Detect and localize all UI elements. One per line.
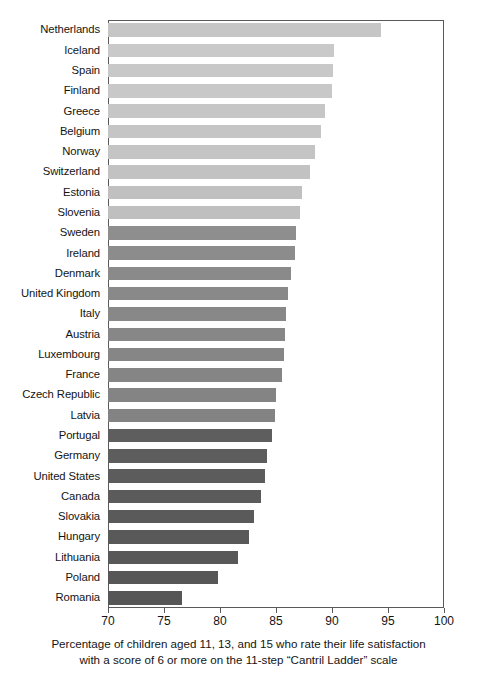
bar xyxy=(108,145,315,159)
category-label-row: Belgium xyxy=(0,121,104,141)
category-label-row: Finland xyxy=(0,81,104,101)
bar xyxy=(108,551,238,565)
category-label-row: Ireland xyxy=(0,243,104,263)
bar-row xyxy=(108,405,444,425)
category-label-row: Latvia xyxy=(0,405,104,425)
bar-row xyxy=(108,385,444,405)
bar xyxy=(108,165,310,179)
category-label-row: Denmark xyxy=(0,263,104,283)
category-label-row: Romania xyxy=(0,588,104,608)
category-label: Spain xyxy=(72,65,104,76)
axis-tick-mark xyxy=(220,608,221,613)
axis-tick-label: 70 xyxy=(101,614,114,628)
category-label: France xyxy=(65,369,104,380)
axis-tick-mark xyxy=(108,608,109,613)
category-label-row: Italy xyxy=(0,304,104,324)
bar-row xyxy=(108,365,444,385)
axis-tick-mark xyxy=(276,608,277,613)
bar-row xyxy=(108,527,444,547)
category-label: Poland xyxy=(65,572,104,583)
caption-line-2: with a score of 6 or more on the 11-step… xyxy=(0,652,477,668)
category-label-row: United Kingdom xyxy=(0,284,104,304)
bar xyxy=(108,186,302,200)
category-label: Netherlands xyxy=(40,24,104,35)
bar xyxy=(108,571,218,585)
bar-row xyxy=(108,486,444,506)
category-label: Lithuania xyxy=(55,552,104,563)
axis-tick-label: 95 xyxy=(381,614,394,628)
category-label-row: Spain xyxy=(0,61,104,81)
bar xyxy=(108,328,285,342)
category-label: Belgium xyxy=(60,126,104,137)
category-label: Germany xyxy=(54,450,104,461)
caption-line-1: Percentage of children aged 11, 13, and … xyxy=(0,636,477,652)
bar-row xyxy=(108,223,444,243)
bar xyxy=(108,510,254,524)
axis-tick-label: 100 xyxy=(434,614,454,628)
category-label-row: Hungary xyxy=(0,527,104,547)
bar xyxy=(108,104,325,118)
bar-row xyxy=(108,426,444,446)
category-label: Greece xyxy=(64,106,104,117)
category-label-row: Luxembourg xyxy=(0,344,104,364)
bar-row xyxy=(108,446,444,466)
bar xyxy=(108,368,282,382)
category-label: Luxembourg xyxy=(38,349,104,360)
bar-row xyxy=(108,20,444,40)
bar xyxy=(108,591,182,605)
category-label: United Kingdom xyxy=(21,288,104,299)
category-label: Czech Republic xyxy=(22,389,104,400)
axis-tick-mark xyxy=(164,608,165,613)
category-label: Canada xyxy=(61,491,104,502)
category-label-row: Norway xyxy=(0,142,104,162)
bar-row xyxy=(108,162,444,182)
bar-row xyxy=(108,182,444,202)
category-label: Sweden xyxy=(60,227,104,238)
bar xyxy=(108,469,265,483)
category-label: Latvia xyxy=(70,410,104,421)
axis-tick-label: 75 xyxy=(157,614,170,628)
bar-row xyxy=(108,61,444,81)
category-label: Iceland xyxy=(64,45,104,56)
category-label: Ireland xyxy=(66,248,104,259)
bar xyxy=(108,246,295,260)
bar-row xyxy=(108,588,444,608)
category-label-row: Canada xyxy=(0,486,104,506)
category-label-row: Slovenia xyxy=(0,202,104,222)
bar-row xyxy=(108,344,444,364)
axis-tick-mark xyxy=(388,608,389,613)
bar-row xyxy=(108,304,444,324)
bar-row xyxy=(108,81,444,101)
bar-row xyxy=(108,284,444,304)
value-axis: 707580859095100 xyxy=(108,608,444,630)
bar xyxy=(108,226,296,240)
bar xyxy=(108,23,381,37)
category-label-row: Estonia xyxy=(0,182,104,202)
category-label-row: Sweden xyxy=(0,223,104,243)
bar-row xyxy=(108,202,444,222)
bar-row xyxy=(108,466,444,486)
category-label-row: Czech Republic xyxy=(0,385,104,405)
category-label-row: Poland xyxy=(0,567,104,587)
category-label-row: Lithuania xyxy=(0,547,104,567)
category-label-row: Switzerland xyxy=(0,162,104,182)
category-label: Norway xyxy=(62,146,104,157)
category-label: Estonia xyxy=(63,187,104,198)
bar xyxy=(108,287,288,301)
bar-row xyxy=(108,547,444,567)
bar xyxy=(108,409,275,423)
bar xyxy=(108,84,332,98)
category-label: Austria xyxy=(66,329,104,340)
bar-row xyxy=(108,567,444,587)
category-label-row: Austria xyxy=(0,324,104,344)
bar-row xyxy=(108,142,444,162)
category-label-row: France xyxy=(0,365,104,385)
chart-caption: Percentage of children aged 11, 13, and … xyxy=(0,636,477,667)
bar xyxy=(108,348,284,362)
bar xyxy=(108,449,267,463)
bars-layer xyxy=(108,20,444,608)
bar xyxy=(108,388,276,402)
bar xyxy=(108,267,291,281)
bar-row xyxy=(108,121,444,141)
category-label: United States xyxy=(33,471,104,482)
